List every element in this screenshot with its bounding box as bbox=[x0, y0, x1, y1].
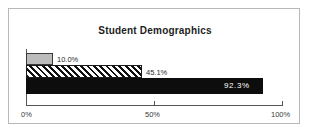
axis-tick-50 bbox=[154, 101, 155, 106]
bar-series-1[interactable] bbox=[26, 53, 53, 65]
axis-tick-0 bbox=[26, 101, 27, 106]
bar-label-series-1: 10.0% bbox=[57, 55, 78, 64]
chart-title: Student Demographics bbox=[0, 25, 310, 37]
axis-tick-label-100: 100% bbox=[271, 110, 290, 119]
bar-label-series-2: 45.1% bbox=[146, 68, 167, 77]
axis-tick-label-50: 50% bbox=[145, 110, 160, 119]
axis-tick-label-0: 0% bbox=[21, 110, 32, 119]
chart-container: Student Demographics 0% 50% 100% 10.0% 4… bbox=[0, 0, 310, 132]
axis-tick-100 bbox=[282, 101, 283, 106]
bar-label-series-3: 92.3% bbox=[224, 81, 250, 91]
bar-series-2[interactable] bbox=[26, 65, 142, 78]
